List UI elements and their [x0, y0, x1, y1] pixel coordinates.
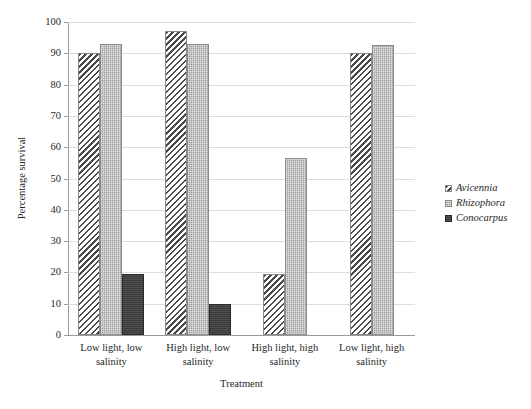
x-category-label: Low light, highsalinity — [328, 341, 415, 368]
bar-rhizophora — [372, 45, 394, 335]
y-tick-label: 100 — [45, 17, 61, 28]
legend-label: Conocarpus — [456, 213, 507, 224]
y-tick-label: 60 — [51, 142, 62, 153]
x-category-label: High light, highsalinity — [242, 341, 329, 368]
y-tick-label: 0 — [56, 330, 61, 341]
y-tick-label: 30 — [51, 236, 62, 247]
x-category-label-line: High light, low — [155, 341, 242, 355]
y-tick-label: 80 — [51, 79, 62, 90]
gridline — [68, 335, 415, 336]
x-category-label-line: salinity — [328, 355, 415, 369]
bar-conocarpus — [122, 274, 144, 335]
y-tick-label: 90 — [51, 48, 62, 59]
plot-area: 0102030405060708090100 — [68, 22, 415, 335]
y-tick-label: 10 — [51, 298, 62, 309]
legend-label: Avicennia — [456, 183, 497, 194]
hatch-swatch — [445, 185, 452, 192]
legend-item: Avicennia — [445, 182, 531, 195]
x-category-label-line: salinity — [242, 355, 329, 369]
y-tick-label: 50 — [51, 173, 62, 184]
bar-rhizophora — [100, 44, 122, 335]
bar-chart-figure: 0102030405060708090100 Percentage surviv… — [0, 0, 531, 409]
x-category-label-line: Low light, high — [328, 341, 415, 355]
bar-avicennia — [263, 274, 285, 335]
y-tick-label: 20 — [51, 267, 62, 278]
y-tick-label: 40 — [51, 205, 62, 216]
bar-conocarpus — [209, 304, 231, 335]
legend-item: Conocarpus — [445, 212, 531, 225]
legend-item: Rhizophora — [445, 197, 531, 210]
bar-group — [242, 22, 329, 335]
bar-rhizophora — [187, 44, 209, 335]
solid-swatch — [445, 215, 452, 222]
stipple-swatch — [445, 200, 452, 207]
chart-legend: AvicenniaRhizophoraConocarpus — [445, 182, 531, 227]
x-category-label: Low light, lowsalinity — [68, 341, 155, 368]
x-category-label-line: salinity — [68, 355, 155, 369]
bar-group — [328, 22, 415, 335]
bar-rhizophora — [285, 158, 307, 335]
bar-avicennia — [78, 53, 100, 335]
bar-group — [155, 22, 242, 335]
x-axis-title: Treatment — [0, 378, 483, 389]
x-category-label-line: High light, high — [242, 341, 329, 355]
bar-group — [68, 22, 155, 335]
legend-label: Rhizophora — [456, 198, 505, 209]
bar-avicennia — [165, 31, 187, 335]
y-tick-label: 70 — [51, 111, 62, 122]
x-category-label-line: Low light, low — [68, 341, 155, 355]
y-axis-title: Percentage survival — [16, 137, 27, 220]
x-category-label: High light, lowsalinity — [155, 341, 242, 368]
bar-avicennia — [350, 53, 372, 335]
y-tick-mark — [64, 335, 68, 336]
x-category-label-line: salinity — [155, 355, 242, 369]
